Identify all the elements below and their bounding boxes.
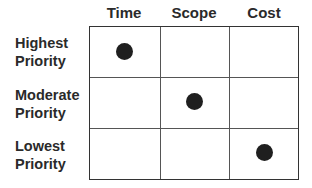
row-label-lowest-line1: Lowest [15, 137, 66, 155]
row-label-moderate: Moderate Priority [15, 86, 79, 122]
priority-grid [89, 26, 299, 180]
dot-moderate-scope [186, 93, 203, 110]
column-header-time: Time [89, 4, 159, 21]
row-label-highest-line2: Priority [15, 52, 68, 70]
row-label-highest-line1: Highest [15, 34, 68, 52]
row-label-highest: Highest Priority [15, 34, 68, 70]
dot-lowest-cost [256, 144, 273, 161]
column-header-cost: Cost [229, 4, 299, 21]
grid-vline-1 [160, 27, 161, 179]
grid-hline-1 [90, 77, 298, 78]
row-label-moderate-line1: Moderate [15, 86, 79, 104]
row-label-lowest: Lowest Priority [15, 137, 66, 173]
column-header-scope: Scope [159, 4, 229, 21]
row-label-moderate-line2: Priority [15, 104, 79, 122]
row-label-lowest-line2: Priority [15, 155, 66, 173]
grid-vline-2 [229, 27, 230, 179]
dot-highest-time [116, 43, 133, 60]
grid-hline-2 [90, 128, 298, 129]
